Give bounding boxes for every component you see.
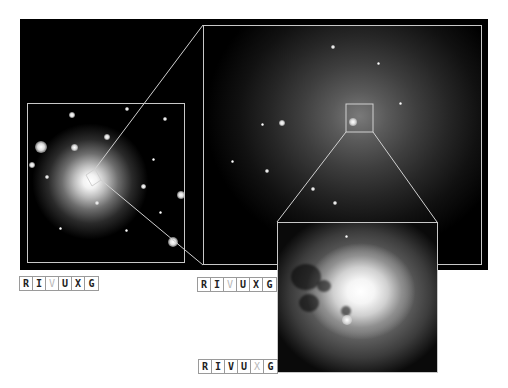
star xyxy=(95,201,99,205)
star xyxy=(333,201,337,205)
star xyxy=(349,118,357,126)
star xyxy=(261,123,264,126)
star xyxy=(177,191,185,199)
band-letter-u: U xyxy=(238,360,251,373)
band-letter-g: G xyxy=(85,277,98,290)
star xyxy=(345,235,348,238)
band-letter-u: U xyxy=(59,277,72,290)
dust-lane xyxy=(317,280,331,292)
band-letter-g: G xyxy=(263,278,276,291)
star xyxy=(45,175,49,179)
star xyxy=(69,112,75,118)
star xyxy=(399,102,402,105)
galaxy-zoom-figure: R I V U X G R I V U X G R I V U X G xyxy=(0,0,508,388)
band-letter-r: R xyxy=(20,277,33,290)
star xyxy=(331,45,335,49)
band-letter-i: I xyxy=(212,360,225,373)
band-letter-r: R xyxy=(198,278,211,291)
band-letter-u: U xyxy=(237,278,250,291)
band-letter-v: V xyxy=(46,277,59,290)
star xyxy=(141,184,146,189)
star xyxy=(152,158,155,161)
star xyxy=(311,187,315,191)
nucleus-closeup-panel xyxy=(277,222,438,373)
wide-field-panel xyxy=(27,103,185,263)
star xyxy=(342,315,352,325)
star xyxy=(104,134,110,140)
band-letter-x: X xyxy=(72,277,85,290)
star xyxy=(59,227,62,230)
star xyxy=(231,160,234,163)
star xyxy=(377,62,380,65)
star xyxy=(125,229,128,232)
dust-lane xyxy=(299,294,319,312)
star xyxy=(125,107,129,111)
band-label-central: R I V U X G xyxy=(197,277,277,292)
star xyxy=(168,237,178,247)
band-label-closeup: R I V U X G xyxy=(198,359,278,374)
band-letter-x: X xyxy=(250,278,263,291)
star xyxy=(35,141,47,153)
star xyxy=(29,162,35,168)
band-letter-g: G xyxy=(264,360,277,373)
band-letter-r: R xyxy=(199,360,212,373)
band-label-wide: R I V U X G xyxy=(19,276,99,291)
band-letter-i: I xyxy=(33,277,46,290)
band-letter-x: X xyxy=(251,360,264,373)
band-letter-v: V xyxy=(225,360,238,373)
star xyxy=(163,117,167,121)
star xyxy=(279,120,285,126)
star xyxy=(265,169,269,173)
band-letter-v: V xyxy=(224,278,237,291)
star xyxy=(159,211,162,214)
star xyxy=(71,144,78,151)
band-letter-i: I xyxy=(211,278,224,291)
